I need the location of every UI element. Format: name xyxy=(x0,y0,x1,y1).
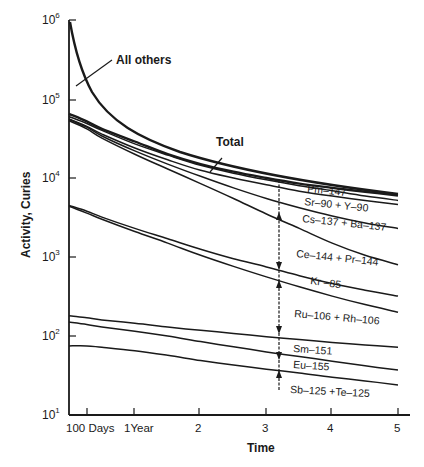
label-kr85: Kr –85 xyxy=(310,274,342,290)
x-tick-1-year: 1Year xyxy=(124,422,154,434)
x-tick-2: 2 xyxy=(195,422,201,434)
curve-eu-155 xyxy=(69,322,398,370)
y-tick-1e2: 102 xyxy=(42,327,60,343)
x-tick-labels: 100 Days 1Year 2 3 4 5 xyxy=(66,422,400,434)
contribution-arrows xyxy=(276,180,282,390)
curve-total xyxy=(69,114,398,196)
label-ru106: Ru–106 + Rh–106 xyxy=(294,307,380,326)
label-total: Total xyxy=(216,135,244,149)
label-cs137: Cs–137 + Ba–137 xyxy=(302,212,387,233)
x-axis-title: Time xyxy=(247,441,275,455)
x-tick-3: 3 xyxy=(262,422,268,434)
y-tick-labels: 106 105 104 103 102 101 xyxy=(42,11,60,422)
y-tick-1e1: 101 xyxy=(42,406,60,422)
label-sm151: Sm–151 xyxy=(293,342,333,357)
y-tick-1e6: 106 xyxy=(42,11,60,27)
x-tick-5: 5 xyxy=(394,422,400,434)
all-others-leader xyxy=(76,60,112,86)
y-axis-title: Activity, Curies xyxy=(19,171,33,258)
x-tick-4: 4 xyxy=(327,422,334,434)
curve-sb-125-te-125 xyxy=(69,346,398,385)
label-all-others: All others xyxy=(116,53,172,67)
curve-sr-90-y-90 xyxy=(69,119,398,205)
x-tick-100-days: 100 Days xyxy=(66,422,115,434)
label-ce144: Ce–144 + Pr–144 xyxy=(296,247,380,268)
label-eu155: Eu–155 xyxy=(293,358,330,373)
curves xyxy=(69,114,398,385)
label-sb125: Sb–125 +Te–125 xyxy=(290,383,370,399)
curve-all-others xyxy=(70,22,398,194)
y-tick-1e4: 104 xyxy=(42,169,60,185)
activity-decay-chart: 106 105 104 103 102 101 100 Days 1Year 2… xyxy=(0,0,424,467)
y-tick-1e5: 105 xyxy=(42,91,60,107)
y-tick-1e3: 103 xyxy=(42,248,60,264)
